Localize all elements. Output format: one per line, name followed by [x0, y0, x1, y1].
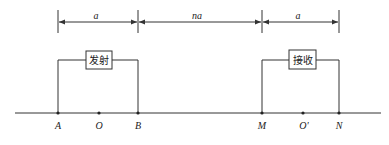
dimension-ab-label: a	[94, 10, 99, 21]
point-m-label: M	[257, 120, 267, 131]
dimension-mn-label: a	[296, 10, 301, 21]
receiver-label: 接收	[293, 54, 313, 66]
point-o	[97, 111, 100, 114]
point-a	[56, 111, 59, 114]
point-o-prime	[301, 111, 304, 114]
point-b-label: B	[135, 120, 141, 131]
point-o-label: O	[95, 120, 102, 131]
point-n	[337, 111, 340, 114]
point-n-label: N	[335, 120, 344, 131]
point-m	[260, 111, 263, 114]
electrode-array-diagram: a na a 发射 接收 A O B M O' N	[0, 0, 389, 145]
point-a-label: A	[54, 120, 62, 131]
point-b	[136, 111, 139, 114]
transmitter-label: 发射	[89, 54, 109, 66]
dimension-bm-label: na	[192, 10, 202, 21]
point-o-prime-label: O'	[299, 120, 309, 131]
